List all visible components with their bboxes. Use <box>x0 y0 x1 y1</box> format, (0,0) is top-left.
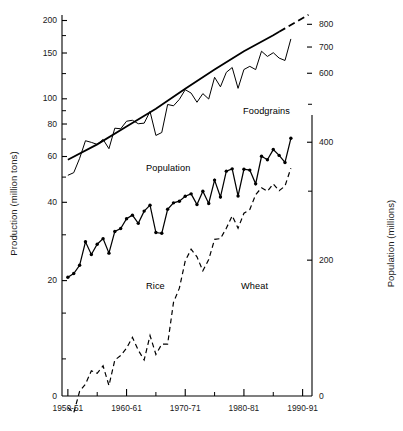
chart-figure: Production (million tons) Population (mi… <box>0 0 403 431</box>
data-point-marker <box>90 253 93 256</box>
y-axis-left-ticks <box>62 21 67 359</box>
data-point-marker <box>166 208 169 211</box>
y-axis-right-tick-800: 800 <box>319 19 353 29</box>
data-point-marker <box>248 168 251 171</box>
plot-canvas <box>0 0 403 431</box>
data-point-marker <box>107 251 110 254</box>
data-point-marker <box>84 240 87 243</box>
y-axis-right-tick-400: 400 <box>319 137 353 147</box>
data-point-marker <box>272 148 275 151</box>
x-axis-tick-1960: 1960-61 <box>97 403 157 413</box>
y-axis-right-tick-700: 700 <box>319 42 353 52</box>
data-point-marker <box>213 178 216 181</box>
data-point-marker <box>266 158 269 161</box>
series-label-rice: Rice <box>146 281 165 291</box>
data-point-marker <box>225 169 228 172</box>
series-label-population: Population <box>146 163 190 173</box>
y-axis-right-ticks <box>307 24 312 260</box>
data-point-marker <box>154 231 157 234</box>
axis-lines <box>62 15 312 396</box>
data-point-marker <box>236 194 239 197</box>
y-axis-left-tick-150: 150 <box>23 48 57 58</box>
data-point-marker <box>242 168 245 171</box>
data-point-marker <box>72 272 75 275</box>
data-point-marker <box>137 222 140 225</box>
data-point-marker <box>283 161 286 164</box>
data-point-marker <box>142 209 145 212</box>
y-axis-right-tick-0: 0 <box>319 391 353 401</box>
data-point-marker <box>78 264 81 267</box>
data-point-marker <box>160 232 163 235</box>
x-axis-tick-1970: 1970-71 <box>155 403 215 413</box>
data-point-marker <box>201 190 204 193</box>
data-point-marker <box>101 237 104 240</box>
data-point-marker <box>189 192 192 195</box>
data-point-marker <box>277 154 280 157</box>
series-label-wheat: Wheat <box>241 281 268 291</box>
y-axis-left-tick-20: 20 <box>23 275 57 285</box>
x-axis-tick-1950: 1950-51 <box>38 403 98 413</box>
data-point-marker <box>113 230 116 233</box>
y-axis-left-tick-200: 200 <box>23 15 57 25</box>
y-axis-right-tick-600: 600 <box>319 68 353 78</box>
data-point-marker <box>184 195 187 198</box>
x-axis-tick-1990: 1990-91 <box>273 403 333 413</box>
data-point-marker <box>178 199 181 202</box>
data-point-marker <box>230 167 233 170</box>
data-point-marker <box>195 203 198 206</box>
data-point-marker <box>131 213 134 216</box>
data-point-marker <box>125 217 128 220</box>
data-point-marker <box>148 203 151 206</box>
x-axis-tick-1980: 1980-81 <box>214 403 274 413</box>
y-axis-left-tick-60: 60 <box>23 151 57 161</box>
data-point-marker <box>254 182 257 185</box>
y-axis-left-tick-40: 40 <box>23 197 57 207</box>
series-label-foodgrains: Foodgrains <box>243 106 290 116</box>
data-point-marker <box>219 195 222 198</box>
data-point-marker <box>119 227 122 230</box>
data-point-marker <box>207 202 210 205</box>
y-axis-left-title: Production (million tons) <box>8 129 19 279</box>
y-axis-right-title: Population (millions) <box>385 169 396 319</box>
data-point-marker <box>96 243 99 246</box>
data-point-marker <box>66 276 69 279</box>
y-axis-left-tick-80: 80 <box>23 119 57 129</box>
series-line-rice <box>66 137 292 279</box>
y-axis-right-tick-200: 200 <box>319 255 353 265</box>
x-axis-ticks <box>68 389 303 396</box>
data-point-marker <box>289 137 292 140</box>
y-axis-left-tick-0: 0 <box>23 391 57 401</box>
data-point-marker <box>172 201 175 204</box>
y-axis-left-tick-100: 100 <box>23 93 57 103</box>
series-line-population <box>68 15 309 160</box>
data-point-marker <box>260 155 263 158</box>
